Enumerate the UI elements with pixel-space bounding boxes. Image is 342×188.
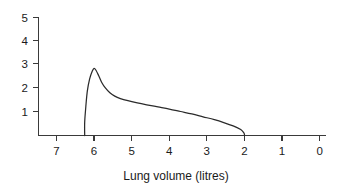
x-tick-label-3: 3 (204, 145, 210, 157)
x-tick-label-0: 0 (316, 145, 322, 157)
flow-volume-chart-figure: 1 2 3 4 5 7 6 5 4 3 2 1 0 (0, 0, 342, 188)
x-tick-label-5: 5 (128, 145, 134, 157)
x-axis-title: Lung volume (litres) (123, 169, 228, 183)
y-tick-label-1: 1 (22, 106, 28, 118)
x-tick-label-7: 7 (53, 145, 59, 157)
x-tick-label-1: 1 (279, 145, 285, 157)
x-tick-label-2: 2 (241, 145, 247, 157)
chart-plot-area: 1 2 3 4 5 7 6 5 4 3 2 1 0 (0, 0, 342, 188)
x-axis-tick-labels: 7 6 5 4 3 2 1 0 (53, 145, 323, 157)
y-tick-label-5: 5 (22, 12, 28, 24)
y-tick-label-2: 2 (22, 82, 28, 94)
y-axis-tick-labels: 1 2 3 4 5 (22, 12, 29, 118)
flow-volume-curve (85, 68, 245, 135)
y-axis-ticks (33, 18, 39, 112)
x-tick-label-6: 6 (91, 145, 97, 157)
y-tick-label-3: 3 (22, 58, 28, 70)
x-tick-label-4: 4 (166, 145, 173, 157)
x-axis-ticks (57, 136, 320, 142)
y-tick-label-4: 4 (22, 35, 29, 47)
